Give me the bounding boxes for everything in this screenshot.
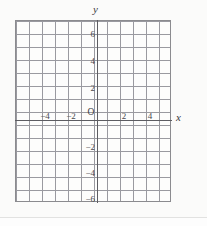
y-tick-label-minus6: −6 (85, 195, 95, 204)
coordinate-plane-figure: x y O −4 −2 2 4 6 4 2 −2 −4 −6 (0, 0, 207, 226)
y-tick-label-6: 6 (91, 30, 96, 39)
y-axis-line (97, 20, 98, 203)
y-tick-label-2: 2 (91, 84, 96, 93)
x-tick-label-minus4: −4 (40, 112, 50, 121)
y-axis-label: y (93, 4, 98, 15)
x-tick-label-minus2: −2 (66, 112, 76, 121)
origin-label: O (88, 108, 95, 118)
x-tick-label-2: 2 (122, 112, 127, 121)
y-tick-label-minus2: −2 (85, 143, 95, 152)
x-tick-label-4: 4 (148, 112, 153, 121)
y-tick-label-4: 4 (91, 57, 96, 66)
bottom-strip (0, 218, 207, 226)
y-tick-label-minus4: −4 (85, 169, 95, 178)
x-axis-label: x (176, 112, 181, 123)
